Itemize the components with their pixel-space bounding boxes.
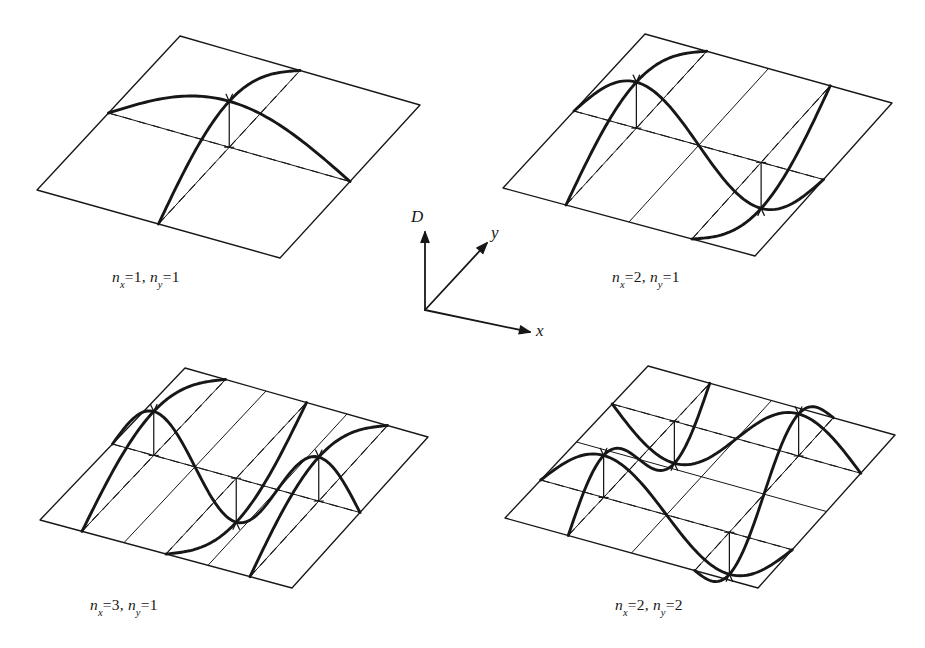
panel-4-caption: nx=2, ny=2 [615,596,683,614]
panel-1-caption: nx=1, ny=1 [112,268,180,286]
figure-background [0,0,925,648]
panel-3-caption: nx=3, ny=1 [90,596,158,614]
axis-d-label: D [411,207,423,227]
panel-2-caption: nx=2, ny=1 [612,268,680,286]
mode-shape-figure [0,0,925,648]
axis-y-label: y [491,223,499,243]
axis-x-label: x [536,321,544,341]
